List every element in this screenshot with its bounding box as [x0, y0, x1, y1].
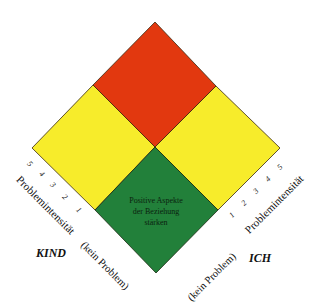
right-side-name: ICH — [249, 252, 271, 264]
center-text-line-1: Positive Aspekte — [111, 195, 201, 206]
center-text: Positive Aspekte der Beziehung stärken — [111, 195, 201, 228]
center-text-line-2: der Beziehung — [111, 206, 201, 217]
left-side-name: KIND — [36, 247, 66, 259]
center-text-line-3: stärken — [111, 217, 201, 228]
